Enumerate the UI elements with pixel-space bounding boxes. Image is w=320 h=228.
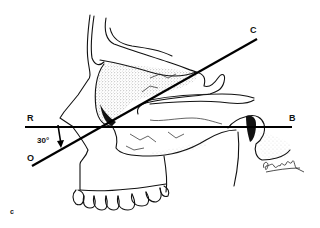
label-o: O bbox=[27, 153, 34, 163]
artist-signature bbox=[263, 161, 304, 172]
skull-drawing bbox=[60, 15, 290, 210]
label-r: R bbox=[27, 113, 34, 123]
angle-label: 30° bbox=[37, 136, 49, 145]
skull-diagram: R B C O 30° c bbox=[0, 0, 320, 228]
label-b: B bbox=[289, 113, 296, 123]
angle-arrow bbox=[57, 125, 64, 148]
panel-label: c bbox=[10, 208, 14, 215]
label-c: C bbox=[250, 25, 257, 35]
